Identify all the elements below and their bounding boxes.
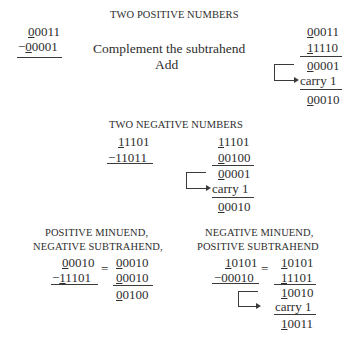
minuend: 00011 <box>28 25 60 38</box>
sum-rule <box>113 285 153 286</box>
work-row: 00011 <box>307 25 339 38</box>
magnitude-bits: 0100 <box>123 287 149 302</box>
sum-rule <box>107 163 153 164</box>
carry-bracket-top <box>186 172 206 173</box>
magnitude-bits: 1101 <box>66 270 91 285</box>
magnitude-bits: 0001 <box>225 166 251 181</box>
arrow-right-icon <box>206 185 211 191</box>
result-row: 00010 <box>218 200 251 213</box>
minuend: 00010 <box>62 256 95 269</box>
work-row: 11110 <box>307 41 338 54</box>
carry-bracket-side <box>238 291 239 306</box>
magnitude-bits: 0001 <box>314 58 340 73</box>
work-row: 10101 <box>281 256 314 269</box>
magnitude-bits: 1101 <box>124 134 150 149</box>
carry-bracket-bottom <box>238 306 256 307</box>
sum-rule <box>212 197 254 198</box>
arrow-right-icon <box>256 303 261 309</box>
work-row: 11101 <box>281 271 313 284</box>
section-title-neg-minuend: NEGATIVE MINUEND, <box>205 228 313 239</box>
work-row: 00001 <box>218 167 251 180</box>
section-title-two-positive: TWO POSITIVE NUMBERS <box>110 10 239 21</box>
step-add: Add <box>155 58 178 72</box>
carry-bracket-bottom <box>186 188 206 189</box>
result-row: 00100 <box>116 288 149 301</box>
magnitude-bits: 0101 <box>288 255 314 270</box>
sum-rule <box>51 284 98 285</box>
section-title-pos-subtrahend: POSITIVE SUBTRAHEND <box>197 242 319 253</box>
magnitude-bits: 0010 <box>123 270 149 285</box>
magnitude-bits: 1101 <box>224 134 250 149</box>
work-row: 10010 <box>281 286 314 299</box>
result-row: 10011 <box>281 317 313 330</box>
magnitude-bits: 0101 <box>232 255 258 270</box>
sum-rule <box>300 89 342 90</box>
carry-bracket-side <box>186 172 187 188</box>
step-complement: Complement the subtrahend <box>93 42 245 56</box>
magnitude-bits: 0011 <box>288 316 314 331</box>
carry-label: carry 1 <box>275 300 311 313</box>
sum-rule <box>212 283 259 284</box>
magnitude-bits: 1101 <box>287 270 313 285</box>
magnitude-bits: 1110 <box>313 40 338 55</box>
sum-rule <box>300 56 342 57</box>
magnitude-bits: 0010 <box>123 255 149 270</box>
carry-bracket-top <box>238 291 258 292</box>
subtrahend: −11101 <box>52 271 91 284</box>
magnitude-bits: 0010 <box>225 199 251 214</box>
magnitude-bits: 0010 <box>314 92 340 107</box>
minuend: 11101 <box>118 135 150 148</box>
carry-bracket-top <box>274 64 294 65</box>
work-row: 00010 <box>116 256 149 269</box>
equals-sign: = <box>101 262 108 275</box>
arrow-right-icon <box>294 77 299 83</box>
work-row: 00100 <box>218 151 251 164</box>
section-title-two-negative: TWO NEGATIVE NUMBERS <box>109 120 243 131</box>
section-title-neg-subtrahend: NEGATIVE SUBTRAHEND, <box>33 242 163 253</box>
carry-bracket-side <box>274 64 275 80</box>
sum-rule <box>17 57 62 58</box>
magnitude-bits: 0011 <box>314 24 340 39</box>
carry-bracket-bottom <box>274 80 294 81</box>
magnitude-bits: 0100 <box>225 150 251 165</box>
minuend: 10101 <box>225 256 258 269</box>
magnitude-bits: 0010 <box>288 285 314 300</box>
work-row: 00001 <box>307 59 340 72</box>
result-row: 00010 <box>307 93 340 106</box>
magnitude-bits: 0011 <box>35 24 61 39</box>
work-row: 00010 <box>116 271 149 284</box>
magnitude-bits: 0010 <box>69 255 95 270</box>
carry-label: carry 1 <box>212 182 248 195</box>
carry-label: carry 1 <box>300 74 336 87</box>
work-row: 11101 <box>218 135 250 148</box>
equals-sign: = <box>261 262 268 275</box>
magnitude-bits: 0001 <box>32 39 58 54</box>
sum-rule <box>274 314 316 315</box>
subtrahend: −00001 <box>18 40 58 53</box>
section-title-pos-minuend: POSITIVE MINUEND, <box>45 228 148 239</box>
